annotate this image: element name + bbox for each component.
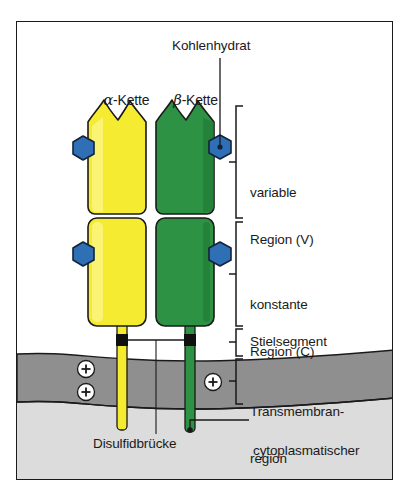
carbohydrate-icon-alpha-constant [73, 242, 94, 266]
variable-region-label: variable Region (V) [250, 154, 314, 278]
alpha-chain-label: α-Kette [81, 77, 149, 124]
alpha-variable-highlight [92, 117, 103, 212]
alpha-chain-suffix: -Kette [113, 92, 149, 108]
figure-canvas: Kohlenhydrat α-Kette β-Kette variable Re… [0, 0, 411, 503]
carbohydrate-icon-alpha-variable [73, 136, 94, 160]
bracket-stalk-segment [229, 329, 243, 356]
disulfide-node-beta [184, 334, 196, 346]
beta-chain-label: β-Kette [151, 77, 218, 124]
cytoplasmic-tail-line-1: cytoplasmatischer [253, 443, 359, 459]
alpha-constant-highlight [92, 222, 103, 322]
beta-constant-shade [203, 222, 210, 322]
charge-group-beta [205, 374, 222, 391]
disulfide-bridge-label: Disulfidbrücke [93, 436, 176, 452]
variable-region-line-1: variable [250, 185, 314, 201]
constant-region-label: konstante Region (C) [250, 266, 314, 390]
beta-chain-suffix: -Kette [182, 92, 218, 108]
beta-symbol: β [173, 91, 181, 109]
bracket-constant-region [229, 222, 243, 326]
variable-region-line-2: Region (V) [250, 232, 314, 248]
constant-region-line-1: konstante [250, 297, 314, 313]
figure-frame: Kohlenhydrat α-Kette β-Kette variable Re… [16, 21, 393, 480]
charge-group-alpha-lower [78, 384, 95, 401]
charge-group-alpha-upper [78, 361, 95, 378]
carbohydrate-icon-beta-constant [209, 242, 231, 266]
disulfide-node-alpha [116, 334, 128, 346]
stalk-segment-label: Stielsegment [250, 334, 327, 350]
bracket-variable-region [229, 106, 243, 218]
alpha-symbol: α [103, 91, 113, 109]
beta-variable-shade [203, 118, 214, 212]
carbohydrate-leader-dot [217, 144, 222, 149]
carbohydrate-label: Kohlenhydrat [172, 38, 250, 54]
cytoplasmic-tail-label: cytoplasmatischer Schwanz [253, 412, 359, 480]
